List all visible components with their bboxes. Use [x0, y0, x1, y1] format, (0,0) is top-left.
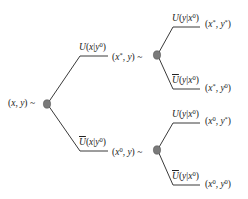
chance-node-upper — [153, 51, 160, 59]
chance-node-root — [43, 100, 50, 108]
branch-root-upper — [48, 56, 108, 103]
branch-label-upper-top: U(y|x0) U(y|x0) — [172, 13, 199, 24]
outcome-upper-top: (x*, y*) (x*, y*) — [205, 19, 231, 30]
outcome-upper-bottom: (x*, y0) (x*, y0) — [205, 83, 231, 94]
node-label-upper: (x*, y) ~ (x*, y) ~ — [112, 52, 142, 63]
branch-label-lower-bottom: Ū(y|x0) U(y|x0) — [172, 171, 199, 182]
branch-label-lower-top: U(y|x0) U(y|x0) — [172, 109, 199, 120]
node-label-lower: (x0, y) ~ (x0, y) ~ — [112, 147, 142, 158]
root-label: (x, y) ~ (x, y) ~ — [8, 99, 35, 109]
branch-label-upper: U(x|y0) U(x|y0) — [79, 42, 106, 53]
outcome-lower-top: (x0, y*) (x0, y*) — [205, 116, 231, 127]
branch-lower-top — [158, 123, 200, 149]
tree-diagram — [0, 0, 248, 199]
outcome-lower-bottom: (x0, y0) (x0, y0) — [205, 179, 231, 190]
chance-node-lower — [153, 146, 160, 154]
branch-label-upper-bottom: Ū(y|x0) U(y|x0) — [172, 75, 199, 86]
branch-upper-top — [158, 27, 200, 54]
branch-label-lower: Ū(x|y0) U(x|y0) — [79, 137, 106, 148]
